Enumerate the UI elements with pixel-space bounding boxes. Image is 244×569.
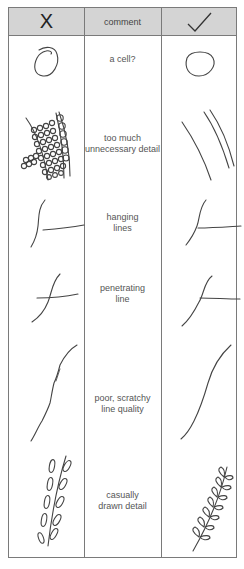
header-good-column (161, 8, 237, 35)
row-comment-cell: penetrating line (84, 283, 161, 305)
row-comment-cell: too much unnecessary detail (84, 133, 161, 155)
scribbled-circle-icon (29, 44, 69, 84)
row-comment-cell: a cell? (84, 54, 161, 65)
touching-line-junction-icon (174, 270, 244, 330)
row-comment-cell: poor, scratchy line quality (84, 393, 161, 415)
connected-line-junction-icon (179, 194, 244, 254)
penetrating-line-junction-icon (24, 270, 89, 326)
checkmark-icon (184, 11, 214, 33)
column-divider-2 (161, 8, 162, 557)
smooth-curve-icon (174, 343, 239, 448)
casual-leaf-sprig-icon (24, 452, 84, 552)
drawing-guidelines-table: X comment a cell? too much unnecessary d… (8, 7, 237, 558)
clean-circle-icon (181, 48, 221, 80)
hanging-line-junction-icon (24, 194, 89, 254)
row-comment-cell: hanging lines (84, 212, 161, 234)
header-comment-column: comment (84, 8, 161, 35)
simple-parallel-lines-icon (179, 108, 239, 188)
careful-leaf-sprig-icon (179, 463, 244, 558)
table-header: X comment (9, 8, 236, 36)
detailed-cell-wall-icon (14, 108, 79, 188)
header-bad-column: X (9, 8, 84, 35)
scratchy-curve-icon (24, 343, 84, 448)
row-comment-cell: casually drawn detail (84, 490, 161, 512)
